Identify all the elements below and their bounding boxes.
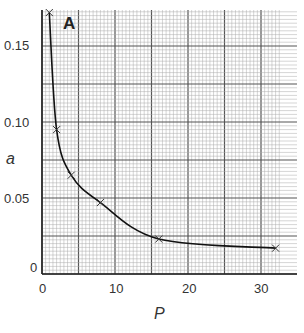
y-tick-0.10: 0.10 [4, 115, 29, 130]
panel-label: A [63, 14, 75, 34]
x-tick-0: 0 [39, 281, 46, 296]
x-axis-label: P [154, 305, 165, 323]
y-tick-0: 0 [30, 260, 37, 275]
chart: A 0.15 0.10 0.05 0 0 10 20 30 a P [0, 0, 304, 333]
x-tick-10: 10 [109, 281, 123, 296]
y-tick-0.05: 0.05 [4, 191, 29, 206]
x-tick-30: 30 [254, 281, 268, 296]
y-axis-label: a [6, 150, 15, 168]
y-tick-0.15: 0.15 [4, 38, 29, 53]
x-tick-20: 20 [182, 281, 196, 296]
